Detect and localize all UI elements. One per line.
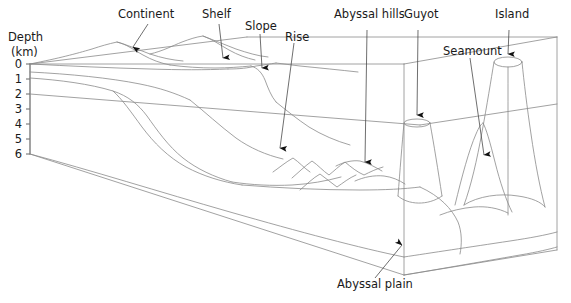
- ocean-floor-diagram: Depth (km) 0 1 2 3 4 5 6: [0, 0, 571, 303]
- label-slope: Slope: [245, 19, 277, 33]
- label-rise: Rise: [285, 30, 309, 44]
- axis-tick-3: 3: [15, 102, 22, 116]
- label-continent: Continent: [118, 7, 175, 21]
- axis-tick-4: 4: [15, 117, 22, 131]
- leader-guyot: [417, 30, 418, 115]
- axis-tick-0: 0: [15, 57, 22, 71]
- leader-island: [508, 30, 509, 54]
- leader-slope: [260, 34, 262, 68]
- axis-tick-6: 6: [15, 147, 22, 161]
- seamount-feature: [440, 123, 512, 215]
- feature-labels: Continent Shelf Slope Rise Abyssal hills…: [118, 7, 529, 291]
- island-feature: [464, 57, 545, 215]
- leader-continent: [133, 24, 148, 47]
- axis-ticks: [26, 64, 30, 154]
- leader-rise: [280, 43, 294, 148]
- label-guyot: Guyot: [404, 7, 439, 21]
- depth-axis: Depth (km) 0 1 2 3 4 5 6: [8, 30, 43, 161]
- label-abyssal-plain: Abyssal plain: [337, 277, 413, 291]
- label-island: Island: [495, 7, 529, 21]
- axis-tick-1: 1: [15, 72, 22, 86]
- label-abyssal-hills: Abyssal hills: [334, 7, 405, 21]
- axis-tick-5: 5: [15, 132, 22, 146]
- leader-shelf: [219, 24, 223, 58]
- leader-abyssal-hills: [365, 30, 367, 162]
- label-leader-lines: [133, 24, 509, 278]
- continental-margin-terrain: [30, 36, 420, 190]
- guyot-feature: [398, 119, 442, 203]
- abyssal-plain-terrain: [30, 154, 557, 275]
- leader-seamount: [470, 58, 484, 155]
- axis-tick-2: 2: [15, 87, 22, 101]
- label-seamount: Seamount: [443, 44, 502, 58]
- label-shelf: Shelf: [202, 7, 232, 21]
- block-wireframe: [30, 37, 557, 275]
- axis-title-depth: Depth: [8, 30, 43, 44]
